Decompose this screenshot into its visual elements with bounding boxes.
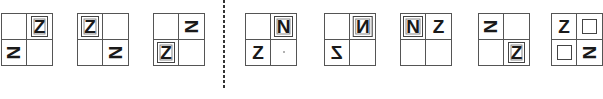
- letter-z-boxed: Z: [81, 16, 99, 37]
- cell: [246, 14, 271, 40]
- cell: N: [350, 14, 375, 40]
- option-figure-2[interactable]: N Z: [324, 13, 376, 66]
- dashed-divider: [223, 0, 225, 88]
- cell: [401, 40, 426, 66]
- cell: Z: [504, 40, 529, 66]
- letter-n-rotated: N: [106, 45, 125, 59]
- cell: [504, 14, 529, 40]
- cell: N: [479, 14, 504, 40]
- question-figure-2: Z N: [77, 13, 129, 66]
- cell: [78, 40, 103, 66]
- letter-n-boxed: N: [403, 16, 423, 37]
- option-figure-5[interactable]: Z N: [551, 13, 603, 66]
- cell: Z: [27, 14, 52, 40]
- letter-n-rotated: N: [481, 19, 500, 33]
- cell: [577, 14, 602, 40]
- option-figure-4[interactable]: N Z: [478, 13, 530, 66]
- cell: Z: [426, 14, 451, 40]
- option-figure-3[interactable]: N Z: [400, 13, 452, 66]
- letter-z-boxed: Z: [508, 42, 526, 63]
- cell: N: [179, 14, 204, 40]
- letter-z: Z: [558, 17, 570, 36]
- option-figure-1[interactable]: N Z: [245, 13, 297, 66]
- cell: [325, 14, 350, 40]
- question-figure-1: Z N: [1, 13, 53, 66]
- cell: N: [577, 40, 602, 66]
- empty-square: [582, 19, 597, 34]
- cell: [2, 14, 27, 40]
- cell: Z: [78, 14, 103, 40]
- question-figure-3: N Z: [153, 13, 205, 66]
- cell: [350, 40, 375, 66]
- letter-z-mirrored: Z: [331, 43, 343, 62]
- letter-z-boxed: Z: [157, 42, 175, 63]
- cell: Z: [154, 40, 179, 66]
- cell: Z: [552, 14, 577, 40]
- cell: Z: [246, 40, 271, 66]
- cell: [271, 40, 296, 66]
- letter-n-rotated: N: [4, 45, 23, 59]
- cell: [154, 14, 179, 40]
- empty-square: [557, 45, 572, 60]
- letter-z: Z: [252, 43, 264, 62]
- cell: [27, 40, 52, 66]
- cell: [479, 40, 504, 66]
- letter-z: Z: [433, 17, 445, 36]
- cell: Z: [325, 40, 350, 66]
- cell: [103, 14, 128, 40]
- cell: [426, 40, 451, 66]
- letter-n-boxed-mirrored: N: [353, 16, 373, 37]
- cell: [179, 40, 204, 66]
- cell: N: [401, 14, 426, 40]
- letter-z-boxed: Z: [31, 16, 49, 37]
- letter-n-boxed: N: [274, 16, 294, 37]
- letter-n-rotated: N: [182, 19, 201, 33]
- letter-n-rotated: N: [580, 45, 599, 59]
- cell: N: [271, 14, 296, 40]
- cell: N: [2, 40, 27, 66]
- cell: N: [103, 40, 128, 66]
- cell: [552, 40, 577, 66]
- dot-mark: [283, 51, 285, 53]
